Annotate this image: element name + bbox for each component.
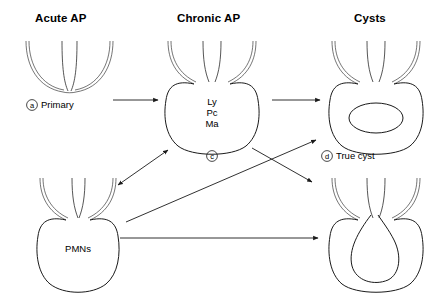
truecyst-canal-right	[379, 41, 385, 82]
pocket-root-right-outer	[394, 178, 420, 220]
pocket-canal-left	[367, 178, 373, 218]
pocket-root-left-outer	[332, 178, 358, 220]
lesion-chronic-ap: Ly Pc Ma c	[165, 41, 259, 161]
pathogenesis-diagram: Acute AP Chronic AP Cysts a Primary	[0, 0, 429, 296]
primary-root-left-inner	[29, 41, 64, 90]
lesion-label-true-cyst: True cyst	[336, 150, 375, 161]
primary-root-right-inner	[75, 41, 110, 90]
chronic-inner-text-ly: Ly	[207, 96, 217, 107]
chronic-root-right-outer	[230, 41, 256, 84]
lesion-true-cyst: d True cyst	[322, 41, 423, 161]
marker-letter-d: d	[325, 152, 329, 161]
truecyst-root-right-inner	[392, 41, 417, 82]
chronic-root-left-outer	[168, 41, 194, 84]
chronic-root-left-inner	[171, 41, 196, 82]
pmn-root-right-inner	[88, 178, 113, 218]
chronic-inner-text-pc: Pc	[206, 107, 217, 118]
lesion-label-primary: Primary	[41, 99, 74, 110]
arrow-chronic-to-pocket-cyst	[252, 148, 312, 182]
chronic-canal-right	[215, 41, 221, 82]
pmn-root-left-outer	[40, 178, 66, 220]
truecyst-canal-left	[367, 41, 373, 82]
primary-canal-left	[62, 41, 68, 91]
pocket-canal-right	[379, 178, 385, 218]
lesion-pocket-cyst	[329, 178, 423, 292]
pocket-lesion-outline	[329, 219, 423, 292]
pocket-root-right-inner	[392, 178, 417, 218]
pmn-canal-right	[79, 178, 85, 218]
primary-root-left-outer	[26, 41, 63, 92]
truecyst-lesion-outline	[329, 83, 423, 154]
primary-apex-curve	[63, 92, 76, 93]
pmn-inner-text: PMNs	[65, 243, 91, 254]
column-header-acute-ap: Acute AP	[35, 12, 87, 24]
chronic-canal-left	[203, 41, 209, 82]
chronic-inner-text-ma: Ma	[205, 118, 219, 129]
pmn-root-left-inner	[43, 178, 68, 218]
truecyst-root-left-inner	[335, 41, 360, 82]
arrow-pmn-to-true-cyst	[126, 140, 316, 222]
primary-canal-right	[71, 41, 77, 91]
pmn-root-right-outer	[90, 178, 116, 220]
marker-letter-a: a	[30, 101, 35, 110]
pmn-lesion-outline	[37, 219, 119, 292]
truecyst-root-left-outer	[332, 41, 358, 84]
diagram-canvas: Acute AP Chronic AP Cysts a Primary	[0, 0, 429, 296]
truecyst-root-right-outer	[394, 41, 420, 84]
pocket-root-left-inner	[335, 178, 360, 218]
primary-root-right-outer	[76, 41, 113, 92]
column-header-chronic-ap: Chronic AP	[177, 12, 240, 24]
column-header-cysts: Cysts	[354, 12, 386, 24]
pmn-canal-left	[72, 178, 78, 218]
truecyst-cavity-ellipse	[349, 103, 403, 133]
chronic-root-right-inner	[228, 41, 253, 82]
pocket-cavity-outline	[351, 215, 399, 282]
lesion-primary-acute-ap: a Primary	[26, 41, 113, 110]
marker-letter-c: c	[210, 152, 214, 161]
lesion-pmn: PMNs	[37, 178, 119, 292]
arrow-chronic-pmn-bidirectional	[118, 150, 168, 185]
